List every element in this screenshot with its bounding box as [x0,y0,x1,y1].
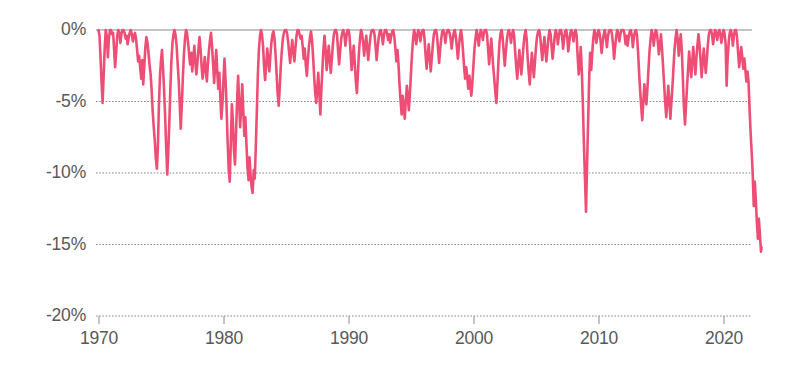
x-axis-label-2000: 2000 [444,330,504,348]
x-axis-label-1970: 1970 [69,330,129,348]
drawdown-series-line [99,30,762,252]
drawdown-chart: 0%-5%-10%-15%-20% 1970198019902000201020… [0,0,790,383]
gridlines-group [96,30,752,316]
y-axis-label-neg5pct: -5% [22,93,86,111]
y-axis-label-neg10pct: -10% [22,164,86,182]
x-axis-label-2020: 2020 [694,330,754,348]
x-axis-label-1980: 1980 [194,330,254,348]
x-axis-label-1990: 1990 [319,330,379,348]
chart-plot-area [0,0,790,383]
x-axis-label-2010: 2010 [569,330,629,348]
y-axis-label-0pct: 0% [22,21,86,39]
x-axis-ticks-group [99,316,724,324]
y-axis-label-neg15pct: -15% [22,236,86,254]
y-axis-label-neg20pct: -20% [22,307,86,325]
